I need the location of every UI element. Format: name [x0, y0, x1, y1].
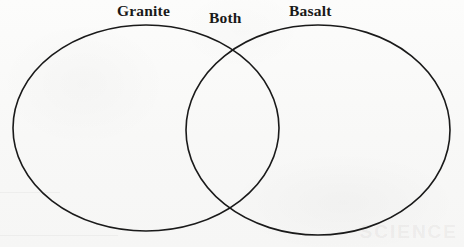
venn-diagram-canvas: [0, 0, 464, 247]
venn-label-basalt: Basalt: [289, 3, 332, 19]
venn-label-granite: Granite: [117, 3, 170, 19]
venn-region-granite-only[interactable]: [13, 25, 287, 231]
venn-diagram-worksheet: Granite Both Basalt SCIENCE: [0, 0, 464, 247]
venn-label-both: Both: [209, 10, 242, 26]
